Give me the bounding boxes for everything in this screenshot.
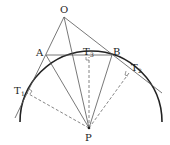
tangent-line-OT1 [15, 17, 64, 118]
radius-PT1 [27, 93, 89, 128]
diagram-canvas: O A B P T 3 T 2 T 1 [0, 0, 170, 145]
label-A: A [35, 47, 44, 58]
segment-BP [89, 55, 112, 128]
radius-PT2 [89, 73, 129, 128]
label-T1: T [14, 85, 21, 96]
label-T1-sub: 1 [21, 90, 25, 97]
point-P-dot [88, 127, 91, 130]
label-O: O [60, 4, 68, 15]
geometry-diagram: O A B P T 3 T 2 T 1 [0, 0, 170, 145]
label-T2-sub: 2 [138, 67, 142, 74]
label-T3: T [83, 46, 90, 57]
label-T3-sub: 3 [90, 51, 94, 58]
right-angle-mark-T1 [29, 89, 32, 94]
circle-arc [20, 51, 162, 122]
label-B: B [113, 46, 120, 57]
segment-AP [46, 55, 89, 128]
label-T2: T [131, 62, 138, 73]
right-angle-mark-T3 [86, 57, 89, 60]
label-P: P [85, 132, 92, 143]
